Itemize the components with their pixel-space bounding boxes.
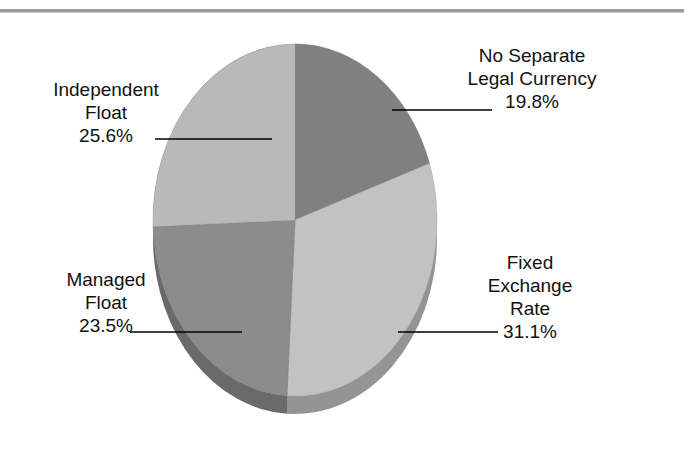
label-no-separate-line1: No Separate [437, 44, 627, 67]
label-managed-float: Managed Float 23.5% [12, 268, 200, 337]
label-managed-line2: Float [12, 291, 200, 314]
label-no-separate-percent: 19.8% [437, 90, 627, 113]
label-managed-percent: 23.5% [12, 314, 200, 337]
label-no-separate-legal-currency: No Separate Legal Currency 19.8% [437, 44, 627, 113]
label-independent-percent: 25.6% [8, 124, 204, 147]
label-no-separate-line2: Legal Currency [437, 67, 627, 90]
label-fixed-exchange-rate: Fixed Exchange Rate 31.1% [450, 251, 610, 343]
label-fixed-line1: Fixed [450, 251, 610, 274]
label-fixed-percent: 31.1% [450, 320, 610, 343]
label-independent-float: Independent Float 25.6% [8, 78, 204, 147]
label-fixed-line2: Exchange [450, 274, 610, 297]
pie-chart-page: No Separate Legal Currency 19.8% Fixed E… [0, 0, 684, 453]
label-fixed-line3: Rate [450, 297, 610, 320]
label-independent-line1: Independent [8, 78, 204, 101]
label-independent-line2: Float [8, 101, 204, 124]
label-managed-line1: Managed [12, 268, 200, 291]
